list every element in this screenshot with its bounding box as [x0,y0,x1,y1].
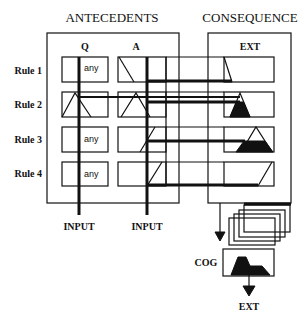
fuzzy-inference-diagram: ANTECEDENTS CONSEQUENCE Q A EXT Rule 1 R… [0,0,307,319]
antecedents-frame [47,33,179,203]
cog-label: COG [195,257,218,268]
aggregated-shape [231,257,270,275]
consequence-heading: CONSEQUENCE [202,10,297,25]
rule-1-label: Rule 1 [15,65,43,76]
row-guides [166,57,224,186]
column-ext-header: EXT [240,41,261,52]
aggregation-arrow-head [215,232,225,241]
rule-2-label: Rule 2 [15,99,43,110]
rule-1-q-any: any [84,63,99,73]
rule-3-q-any: any [84,134,99,144]
rule-3-row: any [62,127,274,152]
rule-1-ext-membership [224,57,232,82]
rule-3-ext-clipped-fill [236,141,273,152]
rule-4-ext-membership [258,162,272,186]
output-arrow-head [243,286,255,296]
rule-2-row [62,92,274,117]
rule-3-label: Rule 3 [15,134,43,145]
rule-4-q-any: any [84,169,99,179]
rule-1-a-membership [119,57,134,82]
rule-1-row: any [62,57,274,82]
stacked-outputs [229,205,290,245]
input-a-label: INPUT [131,221,162,232]
rule-4-label: Rule 4 [15,168,43,179]
rule-4-ext-box [224,162,274,186]
column-a-header: A [132,41,140,52]
rule-2-ext-clipped-fill [230,102,250,117]
consequence-frame [208,33,291,203]
rule-4-a-box [118,162,166,186]
output-ext-label: EXT [239,301,260,312]
rule-4-row: any [62,162,274,186]
input-q-label: INPUT [63,221,94,232]
rule-4-a-membership [147,162,162,186]
column-q-header: Q [81,41,89,52]
rule-1-ext-box [224,57,274,82]
rule-1-a-box [118,57,166,82]
antecedents-heading: ANTECEDENTS [65,10,158,25]
rule-2-a-box [118,92,166,117]
